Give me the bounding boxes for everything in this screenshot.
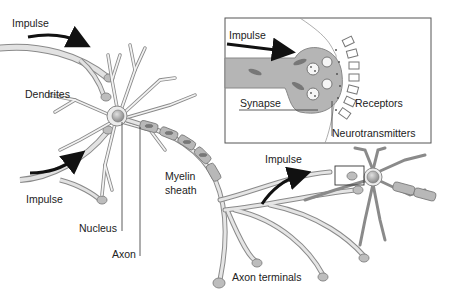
label-nucleus: Nucleus xyxy=(79,222,117,234)
label-dendrites: Dendrites xyxy=(25,88,70,100)
label-impulse-top: Impulse xyxy=(12,17,49,29)
label-impulse-bottom: Impulse xyxy=(26,193,63,205)
label-axon-terminals: Axon terminals xyxy=(232,271,301,283)
neuron-illustration xyxy=(0,0,453,307)
impulse-arrow-top xyxy=(28,35,80,42)
label-axon: Axon xyxy=(112,248,136,260)
inset-label-impulse: Impulse xyxy=(229,29,266,41)
main-axon xyxy=(127,120,225,288)
inset-label-synapse: Synapse xyxy=(240,97,281,109)
label-impulse-right: Impulse xyxy=(265,153,302,165)
label-myelin-line2: sheath xyxy=(165,184,197,196)
neuron-diagram: Impulse Dendrites Impulse Nucleus Axon M… xyxy=(0,0,453,307)
main-nucleus xyxy=(112,110,124,122)
inset-label-receptors: Receptors xyxy=(355,97,403,109)
inset-label-neurotransmitters: Neurotransmitters xyxy=(332,127,415,139)
label-myelin-line1: Myelin xyxy=(165,170,195,182)
